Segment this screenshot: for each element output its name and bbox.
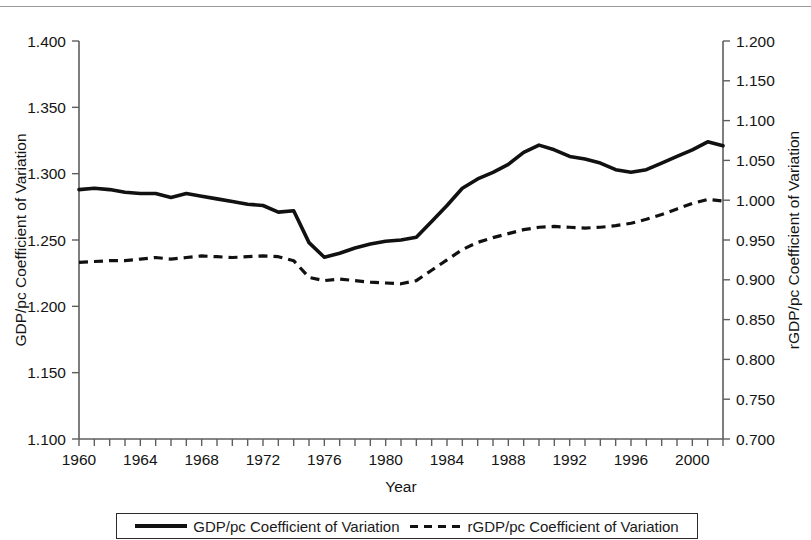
right-tick-label: 1.150 bbox=[736, 72, 775, 89]
right-tick-label: 0.750 bbox=[736, 391, 775, 408]
left-tick-label: 1.150 bbox=[27, 364, 66, 381]
right-axis-title: rGDP/pc Coefficient of Variation bbox=[785, 131, 802, 349]
legend-label-rgdp: rGDP/pc Coefficient of Variation bbox=[468, 518, 679, 535]
right-tick-label: 0.800 bbox=[736, 351, 775, 368]
x-tick-label: 1988 bbox=[491, 451, 525, 468]
right-axis-tick-labels: 0.7000.7500.8000.8500.9000.9501.0001.050… bbox=[736, 33, 775, 448]
x-tick-label: 1976 bbox=[307, 451, 341, 468]
right-tick-label: 0.850 bbox=[736, 311, 775, 328]
right-tick-label: 1.050 bbox=[736, 152, 775, 169]
right-tick-label: 1.000 bbox=[736, 192, 775, 209]
x-tick-label: 1968 bbox=[184, 451, 218, 468]
x-tick-label: 1992 bbox=[552, 451, 586, 468]
x-axis-title: Year bbox=[385, 478, 416, 495]
right-tick-label: 1.100 bbox=[736, 112, 775, 129]
legend-entry-gdp: GDP/pc Coefficient of Variation bbox=[135, 518, 399, 535]
legend-entry-rgdp: rGDP/pc Coefficient of Variation bbox=[410, 518, 679, 535]
axis-tick-marks bbox=[72, 41, 730, 446]
left-axis-tick-labels: 1.1001.1501.2001.2501.3001.3501.400 bbox=[27, 33, 66, 448]
legend-solid-line-icon bbox=[135, 524, 187, 528]
left-tick-label: 1.350 bbox=[27, 99, 66, 116]
x-axis-tick-labels: 1960196419681972197619801984198819921996… bbox=[62, 451, 710, 468]
x-tick-label: 1980 bbox=[368, 451, 403, 468]
left-tick-label: 1.200 bbox=[27, 298, 66, 315]
data-series bbox=[79, 142, 723, 284]
x-tick-label: 1972 bbox=[246, 451, 280, 468]
legend-dashed-line-icon bbox=[410, 525, 462, 528]
x-tick-label: 1960 bbox=[62, 451, 97, 468]
right-tick-label: 0.900 bbox=[736, 271, 775, 288]
right-tick-label: 0.950 bbox=[736, 232, 775, 249]
x-tick-label: 1984 bbox=[430, 451, 465, 468]
left-axis-title: GDP/pc Coefficient of Variation bbox=[12, 133, 29, 346]
right-tick-label: 1.200 bbox=[736, 33, 775, 50]
right-tick-label: 0.700 bbox=[736, 431, 775, 448]
left-tick-label: 1.300 bbox=[27, 165, 66, 182]
x-tick-label: 2000 bbox=[675, 451, 710, 468]
series-line-gdp bbox=[79, 142, 723, 257]
chart-legend: GDP/pc Coefficient of Variation rGDP/pc … bbox=[116, 513, 698, 539]
x-tick-label: 1996 bbox=[614, 451, 648, 468]
x-tick-label: 1964 bbox=[123, 451, 158, 468]
legend-label-gdp: GDP/pc Coefficient of Variation bbox=[193, 518, 399, 535]
left-tick-label: 1.250 bbox=[27, 232, 66, 249]
chart-figure: 1.1001.1501.2001.2501.3001.3501.400 0.70… bbox=[0, 0, 811, 540]
left-tick-label: 1.400 bbox=[27, 33, 66, 50]
left-tick-label: 1.100 bbox=[27, 431, 66, 448]
line-chart-plot: 1.1001.1501.2001.2501.3001.3501.400 0.70… bbox=[0, 0, 811, 540]
